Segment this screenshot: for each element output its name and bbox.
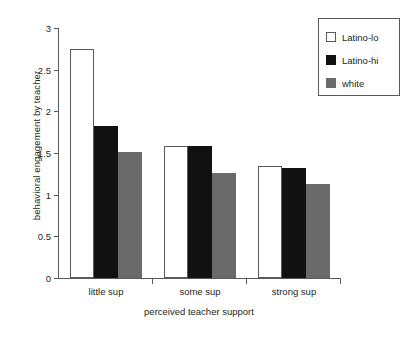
y-tick-mark [54,278,58,279]
y-tick-mark [54,153,58,154]
legend-swatch-icon [326,78,336,88]
bar [164,146,188,279]
legend-item[interactable]: white [326,73,399,93]
y-axis-line [58,28,59,279]
x-separator-tick [246,279,247,284]
bar [306,184,330,278]
chart-legend: Latino-loLatino-hiwhite [318,18,400,96]
y-tick-label: 1.5 [38,148,51,159]
y-tick-mark [54,111,58,112]
legend-swatch-icon [326,32,336,42]
y-tick-mark [54,28,58,29]
y-tick-label: 2.5 [38,64,51,75]
y-tick-label: 0.5 [38,231,51,242]
x-separator-tick [152,279,153,284]
y-tick-label: 3 [46,23,51,34]
legend-item[interactable]: Latino-lo [326,27,399,47]
y-tick-label: 1 [46,189,51,200]
bar [282,168,306,278]
bar [212,173,236,278]
x-axis-title: perceived teacher support [58,306,340,317]
x-category-label: little sup [89,286,124,297]
y-tick-label: 0 [46,273,51,284]
x-separator-tick [340,279,341,284]
bar [258,166,282,278]
bar [70,49,94,278]
x-category-label: some sup [179,286,220,297]
plot-area: 00.511.522.53 little supsome supstrong s… [58,28,340,278]
y-tick-mark [54,70,58,71]
legend-item[interactable]: Latino-hi [326,50,399,70]
y-tick-mark [54,195,58,196]
bar [94,126,118,279]
legend-label: white [342,78,364,89]
legend-label: Latino-lo [342,32,378,43]
x-axis-line [58,278,341,279]
legend-label: Latino-hi [342,55,378,66]
bar [188,146,212,278]
y-tick-mark [54,236,58,237]
x-category-label: strong sup [272,286,316,297]
legend-swatch-icon [326,55,336,65]
y-tick-label: 2 [46,106,51,117]
bar-chart-figure: behavioral engagement by teacher 00.511.… [0,0,408,339]
bar [118,152,142,278]
